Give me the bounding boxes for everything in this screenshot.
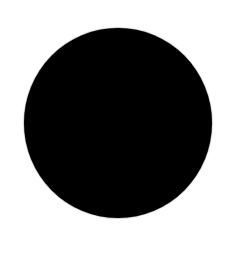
canvas: [0, 0, 237, 258]
black-circle: [24, 28, 212, 218]
